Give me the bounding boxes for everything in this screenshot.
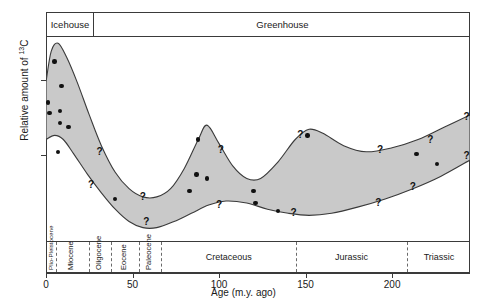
x-axis-label: Age (m.y. ago) (0, 287, 487, 298)
data-point (305, 133, 309, 137)
climate-mode-greenhouse-label: Greenhouse (256, 19, 308, 30)
uncertainty-question-mark: ? (297, 130, 303, 140)
uncertainty-question-mark: ? (143, 217, 149, 227)
data-point (253, 201, 257, 205)
y-axis-tick (41, 80, 46, 81)
uncertainty-question-mark: ? (463, 151, 469, 161)
climate-mode-header: Icehouse Greenhouse (46, 12, 470, 37)
timescale-divider (89, 242, 90, 272)
y-axis-label: Relative amount of 13C (18, 0, 30, 190)
y-axis-label-post: C (19, 40, 30, 47)
uncertainty-question-mark: ? (140, 192, 146, 202)
data-point (251, 189, 255, 193)
x-axis-tick (46, 273, 47, 278)
climate-mode-greenhouse: Greenhouse (94, 13, 471, 36)
geologic-timescale: Plio-PleistoceneMioceneOligoceneEocenePa… (46, 242, 470, 273)
data-point (58, 109, 62, 113)
timescale-unit-triassic: Triassic (424, 252, 455, 262)
y-axis-label-pre: Relative amount of (19, 55, 30, 141)
timescale-unit-oligocene: Oligocene (94, 236, 103, 270)
data-point (187, 189, 191, 193)
timescale-unit-plio-pleistocene: Plio-Pleistocene (47, 226, 54, 270)
data-point (66, 125, 70, 129)
timescale-unit-paleocene: Paleocene (144, 234, 153, 270)
data-point (205, 176, 209, 180)
uncertainty-question-mark: ? (88, 180, 94, 190)
x-axis-tick (306, 273, 307, 278)
uncertainty-question-mark: ? (427, 135, 433, 145)
x-axis-tick (219, 273, 220, 278)
c13-band-polygon (46, 43, 470, 228)
c13-envelope-band (46, 37, 470, 242)
timescale-unit-cretaceous: Cretaceous (206, 252, 252, 262)
y-axis-label-superscript: 13 (18, 47, 25, 55)
timescale-divider (296, 242, 297, 272)
y-axis-tick (41, 155, 46, 156)
timescale-divider (56, 242, 57, 272)
uncertainty-question-mark: ? (216, 200, 222, 210)
climate-mode-icehouse: Icehouse (47, 13, 94, 36)
timescale-divider (111, 242, 112, 272)
uncertainty-question-mark: ? (410, 182, 416, 192)
uncertainty-question-mark: ? (97, 147, 103, 157)
timescale-divider (139, 242, 140, 272)
uncertainty-question-mark: ? (290, 208, 296, 218)
timescale-unit-jurassic: Jurassic (335, 252, 368, 262)
chart-data-layer: ?????????????? (46, 37, 470, 242)
data-point (194, 172, 198, 176)
x-axis-tick (392, 273, 393, 278)
data-point (414, 152, 418, 156)
timescale-divider (161, 242, 162, 272)
timescale-unit-miocene: Miocene (66, 241, 75, 270)
data-point (46, 100, 50, 104)
uncertainty-question-mark: ? (463, 112, 469, 122)
uncertainty-question-mark: ? (218, 145, 224, 155)
data-point (47, 111, 51, 115)
x-axis-tick (133, 273, 134, 278)
uncertainty-question-mark: ? (377, 145, 383, 155)
uncertainty-question-mark: ? (375, 198, 381, 208)
climate-mode-icehouse-label: Icehouse (51, 19, 90, 30)
timescale-divider (407, 242, 408, 272)
x-axis-line (46, 273, 470, 274)
timescale-unit-eocene: Eocene (119, 244, 128, 270)
figure-root: Icehouse Greenhouse ?????????????? Relat… (0, 0, 487, 302)
data-point (52, 59, 56, 63)
